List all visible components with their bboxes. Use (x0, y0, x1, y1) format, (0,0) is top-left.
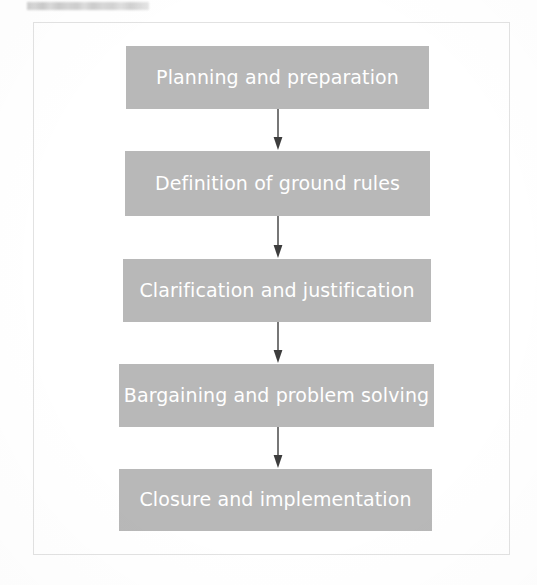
figure-frame: Planning and preparation Definition of g… (33, 22, 510, 555)
redacted-caption-bar (27, 2, 149, 10)
flow-node-step-4: Bargaining and problem solving (119, 364, 434, 427)
flow-node-step-2: Definition of ground rules (125, 151, 430, 216)
flow-node-label-step-1: Planning and preparation (156, 68, 399, 88)
flow-node-label-step-5: Closure and implementation (139, 490, 411, 510)
flow-node-step-5: Closure and implementation (119, 469, 432, 531)
flowchart: Planning and preparation Definition of g… (34, 23, 511, 556)
flow-arrow-1-to-2 (271, 109, 285, 151)
flow-node-step-3: Clarification and justification (123, 259, 431, 322)
flow-arrow-4-to-5 (271, 427, 285, 469)
flow-node-label-step-4: Bargaining and problem solving (124, 386, 429, 406)
flow-arrow-3-to-4 (271, 322, 285, 364)
flow-node-step-1: Planning and preparation (126, 46, 429, 109)
flow-node-label-step-2: Definition of ground rules (155, 174, 400, 194)
flow-arrow-2-to-3 (271, 216, 285, 259)
flow-node-label-step-3: Clarification and justification (139, 281, 414, 301)
